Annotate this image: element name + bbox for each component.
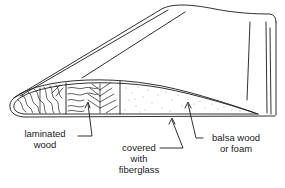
label-laminated-line2: wood — [14, 139, 76, 150]
label-covered-line1: covered — [108, 142, 170, 153]
label-balsa-line1: balsa wood — [200, 132, 272, 143]
wood-grain-block-2 — [68, 83, 117, 113]
label-balsa-wood-or-foam: balsa wood or foam — [200, 132, 272, 154]
label-laminated-line1: laminated — [14, 128, 76, 139]
airfoil-section — [10, 80, 275, 117]
label-balsa-line2: or foam — [200, 143, 272, 154]
label-laminated-wood: laminated wood — [14, 128, 76, 150]
wing-outline — [14, 5, 276, 115]
label-covered-with-fiberglass: covered with fiberglass — [108, 142, 170, 175]
label-covered-line3: fiberglass — [108, 164, 170, 175]
label-covered-line2: with — [108, 153, 170, 164]
